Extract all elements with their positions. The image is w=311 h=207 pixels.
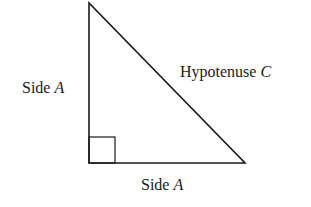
label-text: Side xyxy=(22,79,54,96)
label-hypotenuse: Hypotenuse C xyxy=(180,64,271,80)
label-variable: C xyxy=(260,63,271,80)
label-bottom-side: Side A xyxy=(141,177,183,193)
label-variable: A xyxy=(173,176,183,193)
label-variable: A xyxy=(54,79,64,96)
label-text: Side xyxy=(141,176,173,193)
label-text: Hypotenuse xyxy=(180,63,260,80)
right-angle-marker xyxy=(89,137,115,163)
right-triangle xyxy=(89,3,245,163)
label-left-side: Side A xyxy=(22,80,64,96)
